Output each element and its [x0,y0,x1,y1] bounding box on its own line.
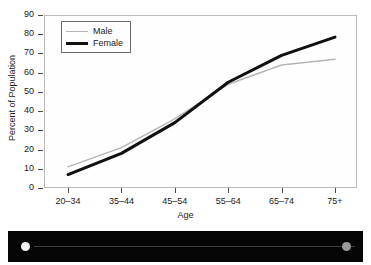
y-tick-mark [38,73,43,74]
y-tick-label: 90 [8,10,34,19]
x-tick-label: 35–44 [109,196,134,206]
legend-item-male: Male [66,25,123,37]
x-tick-mark [228,188,229,193]
y-tick-mark [38,92,43,93]
x-tick-label: 75+ [327,196,342,206]
x-tick-mark [68,188,69,193]
line-chart: 0102030405060708090 20–3435–4445–5455–64… [0,0,371,230]
band-dot-right-icon [342,242,351,251]
y-tick-mark [38,111,43,112]
x-axis-title: Age [0,210,371,220]
series-line-male [68,59,335,167]
x-tick-label: 20–34 [55,196,80,206]
y-axis-title: Percent of Population [7,23,17,173]
y-tick-mark [38,150,43,151]
y-tick-mark [38,188,43,189]
x-tick-mark [175,188,176,193]
x-tick-mark [121,188,122,193]
x-tick-label: 55–64 [216,196,241,206]
legend-swatch-male-icon [66,31,88,32]
legend-swatch-female-icon [66,42,88,45]
series-line-female [68,37,335,174]
bottom-black-band [8,231,363,262]
y-tick-mark [38,34,43,35]
band-dot-left-icon [21,242,30,251]
legend-item-female: Female [66,37,123,49]
y-tick-mark [38,169,43,170]
legend-label-female: Female [93,38,123,48]
y-tick-mark [38,130,43,131]
band-connector-line [34,246,355,247]
x-tick-mark [335,188,336,193]
x-tick-label: 65–74 [269,196,294,206]
y-tick-label: 0 [8,183,34,192]
y-tick-mark [38,53,43,54]
x-tick-mark [282,188,283,193]
y-tick-mark [38,15,43,16]
figure: 0102030405060708090 20–3435–4445–5455–64… [0,0,371,265]
chart-legend: Male Female [61,21,131,53]
legend-label-male: Male [93,26,113,36]
x-tick-label: 45–54 [162,196,187,206]
